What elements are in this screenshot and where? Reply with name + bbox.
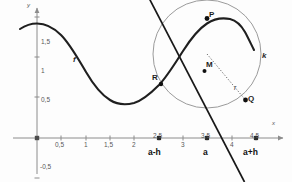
radius-label-r: r: [234, 84, 236, 91]
point-p-label: P: [209, 11, 214, 19]
secant-line: [149, 0, 245, 182]
curve-label-f: f: [73, 56, 76, 64]
function-curve-f: [20, 18, 254, 104]
figure-canvas: y x 1,5 1 0,5 -0,5 0,5 1 1,5 2 2,5 3 3,5…: [0, 0, 292, 182]
x-tick-label-1: 1: [84, 142, 88, 149]
x-axis-label: x: [272, 120, 275, 126]
y-tick-label-neg-0-5: -0,5: [40, 164, 51, 171]
x-tick-label-4: 4: [230, 142, 234, 149]
point-r-marker: [159, 82, 163, 86]
circle-label-k: k: [262, 52, 266, 60]
origin-marker: [35, 136, 39, 140]
x-tick-label-4-5: 4,5: [250, 133, 259, 140]
interval-left-label: a-h: [148, 148, 161, 157]
point-m-marker: [203, 69, 207, 73]
interval-mid-label: a: [203, 148, 208, 157]
center-m-label: M: [206, 61, 213, 69]
y-tick-label-1: 1: [41, 68, 45, 75]
y-tick-label-0-5: 0,5: [41, 97, 50, 104]
x-tick-label-1-5: 1,5: [104, 142, 113, 149]
y-tick-label-1-5: 1,5: [41, 39, 50, 46]
point-r-label: R: [152, 74, 158, 82]
x-tick-label-2: 2: [132, 142, 136, 149]
x-tick-label-0-5: 0,5: [55, 142, 64, 149]
interval-right-label: a+h: [243, 148, 258, 157]
x-tick-label-2-5: 2,5: [153, 133, 162, 140]
x-tick-label-3-5: 3,5: [201, 133, 210, 140]
point-q-label: Q: [248, 95, 254, 103]
x-tick-label-3: 3: [181, 142, 185, 149]
y-axis-label: y: [27, 2, 30, 8]
